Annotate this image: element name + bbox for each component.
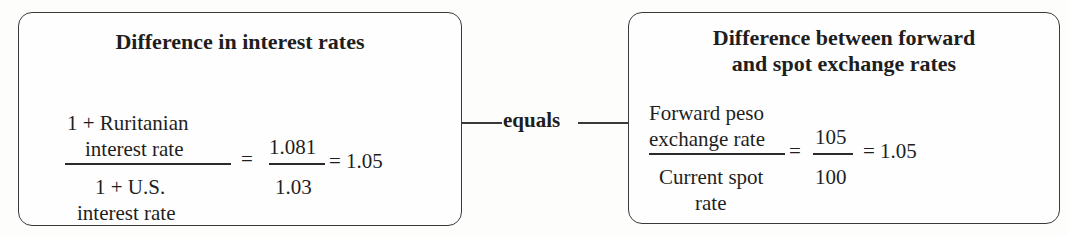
denominator-line2: interest rate: [77, 201, 176, 225]
result-value: = 1.05: [863, 139, 917, 163]
numerator-line1: 1 + Ruritanian: [67, 111, 189, 135]
numerator-line2: interest rate: [85, 137, 184, 161]
box-title: Difference in interest rates: [19, 29, 461, 55]
fraction-bar: [649, 153, 785, 155]
fraction-bar: [65, 163, 231, 165]
denominator-line2: rate: [695, 191, 726, 215]
box-title-line2: and spot exchange rates: [629, 51, 1059, 77]
connector-line-right: [578, 122, 628, 124]
denominator-line1: 1 + U.S.: [95, 175, 165, 199]
fraction-denominator: 100: [815, 165, 847, 189]
fraction-numerator: 105: [815, 125, 847, 149]
numerator-line1: Forward peso: [649, 101, 764, 125]
exchange-rate-difference-box: Difference between forward and spot exch…: [628, 12, 1060, 224]
equals-sign: =: [789, 139, 801, 163]
interest-rate-difference-box: Difference in interest rates 1 + Ruritan…: [18, 12, 462, 226]
fraction-denominator: 1.03: [275, 175, 312, 199]
connector-line-left: [462, 122, 502, 124]
box-title: Difference between forward and spot exch…: [629, 25, 1059, 77]
numerator-line2: exchange rate: [649, 127, 765, 151]
denominator-line1: Current spot: [659, 165, 763, 189]
box-title-line1: Difference between forward: [629, 25, 1059, 51]
fraction-bar: [813, 153, 853, 155]
result-value: = 1.05: [329, 149, 383, 173]
fraction-numerator: 1.081: [269, 135, 316, 159]
fraction-bar: [269, 163, 325, 165]
equals-label: equals: [503, 108, 560, 133]
equals-sign: =: [241, 147, 253, 171]
